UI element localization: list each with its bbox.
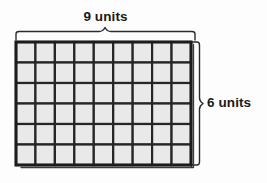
unit-square xyxy=(94,145,113,166)
unit-square xyxy=(74,42,93,63)
unit-square xyxy=(133,124,152,145)
grid-rectangle-svg xyxy=(0,0,267,183)
unit-square xyxy=(35,83,54,104)
unit-square xyxy=(113,83,132,104)
unit-square xyxy=(152,104,171,125)
unit-square xyxy=(133,63,152,84)
unit-square xyxy=(74,63,93,84)
unit-square xyxy=(35,145,54,166)
unit-square xyxy=(16,145,35,166)
unit-square xyxy=(113,104,132,125)
unit-square xyxy=(94,83,113,104)
unit-square xyxy=(94,104,113,125)
unit-square xyxy=(94,63,113,84)
unit-square xyxy=(55,63,74,84)
unit-square xyxy=(152,145,171,166)
unit-square xyxy=(172,63,191,84)
unit-square xyxy=(55,145,74,166)
unit-square xyxy=(55,83,74,104)
unit-square xyxy=(152,63,171,84)
unit-square xyxy=(16,63,35,84)
right-brace xyxy=(191,42,203,165)
unit-grid xyxy=(16,42,191,165)
unit-square xyxy=(55,124,74,145)
unit-square xyxy=(133,145,152,166)
top-brace xyxy=(16,28,195,41)
unit-square xyxy=(16,42,35,63)
unit-square xyxy=(35,42,54,63)
unit-square xyxy=(152,83,171,104)
unit-square xyxy=(113,145,132,166)
unit-square xyxy=(133,104,152,125)
unit-square xyxy=(94,124,113,145)
unit-square xyxy=(152,42,171,63)
area-model-figure: 9 units 6 units xyxy=(0,0,267,183)
unit-square xyxy=(133,42,152,63)
unit-square xyxy=(172,124,191,145)
unit-square xyxy=(35,124,54,145)
unit-square xyxy=(172,104,191,125)
unit-square xyxy=(113,63,132,84)
unit-square xyxy=(172,145,191,166)
unit-square xyxy=(35,104,54,125)
unit-square xyxy=(94,42,113,63)
unit-square xyxy=(172,42,191,63)
unit-square xyxy=(74,124,93,145)
unit-square xyxy=(113,42,132,63)
unit-square xyxy=(74,83,93,104)
unit-square xyxy=(16,124,35,145)
unit-square xyxy=(35,63,54,84)
unit-square xyxy=(55,104,74,125)
unit-square xyxy=(172,83,191,104)
unit-square xyxy=(74,104,93,125)
unit-square xyxy=(133,83,152,104)
unit-square xyxy=(152,124,171,145)
unit-square xyxy=(74,145,93,166)
unit-square xyxy=(16,83,35,104)
unit-square xyxy=(55,42,74,63)
unit-square xyxy=(16,104,35,125)
unit-square xyxy=(113,124,132,145)
